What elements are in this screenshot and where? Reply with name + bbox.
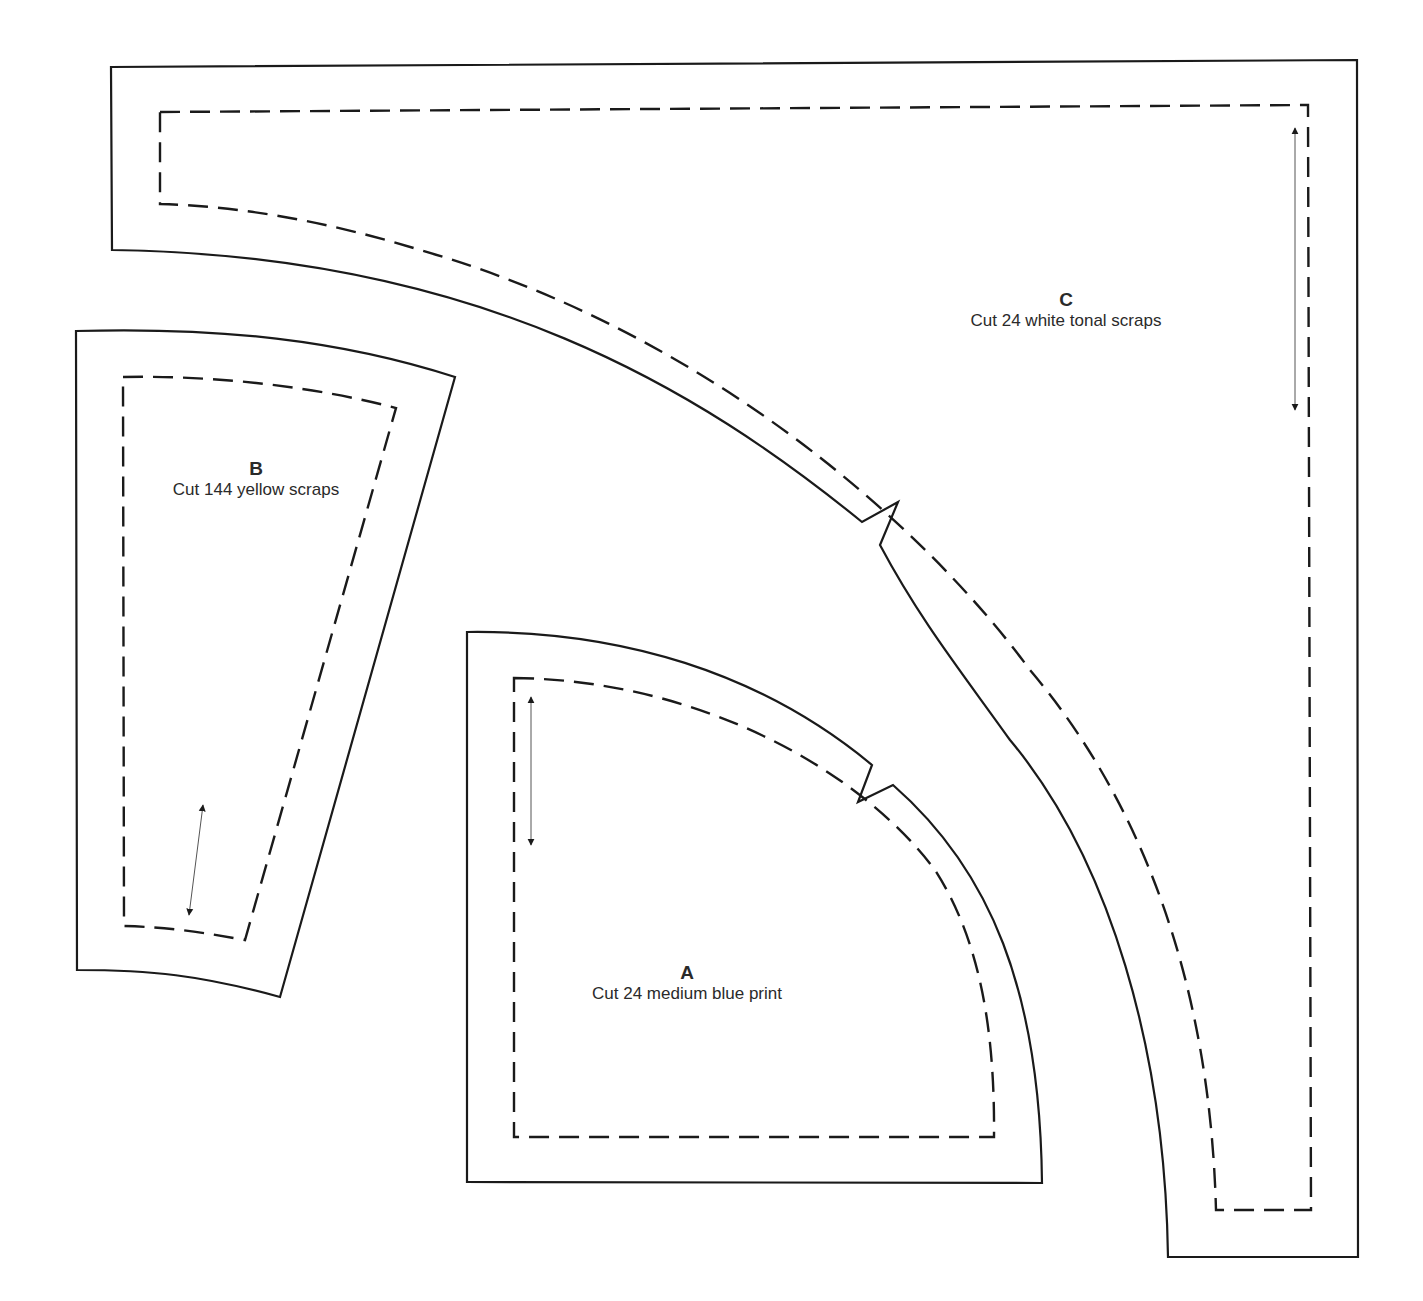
piece-c-instruction: Cut 24 white tonal scraps — [946, 311, 1186, 331]
piece-a-instruction: Cut 24 medium blue print — [562, 984, 812, 1004]
piece-a-label: A Cut 24 medium blue print — [562, 962, 812, 1003]
piece-b-template — [76, 330, 455, 997]
piece-a-letter: A — [562, 962, 812, 984]
piece-c-letter: C — [946, 289, 1186, 311]
piece-b-grain-arrow — [189, 805, 203, 915]
piece-b-cut-line — [76, 330, 455, 997]
piece-c-cut-line — [111, 60, 1358, 1257]
piece-b-label: B Cut 144 yellow scraps — [146, 458, 366, 499]
piece-b-instruction: Cut 144 yellow scraps — [146, 480, 366, 500]
piece-a-template — [467, 632, 1042, 1183]
quilt-pattern-diagram — [0, 0, 1423, 1301]
piece-c-template — [111, 60, 1358, 1257]
piece-c-label: C Cut 24 white tonal scraps — [946, 289, 1186, 330]
piece-b-letter: B — [146, 458, 366, 480]
piece-a-seam-line — [514, 678, 994, 1137]
